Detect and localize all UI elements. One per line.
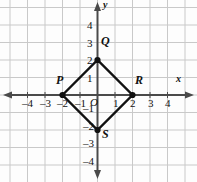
y-tick-label-2: 2 bbox=[87, 55, 93, 66]
origin-label: O bbox=[90, 97, 98, 108]
x-axis-label: x bbox=[176, 74, 181, 84]
x-tick-label--4: –4 bbox=[22, 98, 33, 109]
y-tick-label--2: –2 bbox=[83, 121, 94, 132]
vertex-point-s bbox=[94, 127, 100, 133]
y-axis-label: y bbox=[103, 0, 107, 10]
vertex-label-r: R bbox=[135, 74, 143, 86]
coordinate-plane-figure: –4 –3 –2 –1 1 2 3 4 4 3 2 1 –1 –2 –3 –4 … bbox=[0, 0, 197, 182]
y-tick-label-4: 4 bbox=[87, 20, 93, 31]
y-tick-label-3: 3 bbox=[87, 38, 93, 49]
y-tick-label-1: 1 bbox=[87, 73, 93, 84]
vertex-label-p: P bbox=[56, 74, 63, 86]
vertex-label-s: S bbox=[102, 128, 109, 140]
x-tick-label-4: 4 bbox=[165, 98, 171, 109]
x-tick-label--2: –2 bbox=[57, 98, 68, 109]
vertex-label-q: Q bbox=[101, 35, 110, 47]
y-tick-label--3: –3 bbox=[83, 138, 94, 149]
y-tick-label--4: –4 bbox=[83, 156, 94, 167]
coordinate-plot-svg bbox=[0, 0, 197, 182]
x-tick-label-1: 1 bbox=[113, 98, 119, 109]
x-tick-label--3: –3 bbox=[40, 98, 51, 109]
x-tick-label-2: 2 bbox=[130, 98, 136, 109]
x-tick-label-3: 3 bbox=[148, 98, 154, 109]
vertex-point-q bbox=[94, 57, 100, 63]
